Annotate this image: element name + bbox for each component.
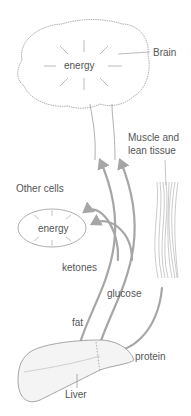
muscle-label-line2: lean tissue <box>128 145 176 156</box>
glucose-to-brain-arrow <box>98 160 135 350</box>
brain-label: Brain <box>153 47 176 58</box>
glucose-label: glucose <box>107 288 141 299</box>
muscle-illustration <box>155 160 178 278</box>
muscle-label-line1: Muscle and <box>128 132 179 143</box>
protein-label: protein <box>135 351 166 362</box>
fat-label: fat <box>72 317 83 328</box>
liver-label: Liver <box>65 389 87 400</box>
other-cells-label: Other cells <box>16 183 64 194</box>
pathway-arrows <box>78 160 162 351</box>
ketones-label: ketones <box>62 262 97 273</box>
cell-energy-label: energy <box>38 223 69 234</box>
brain-energy-label: energy <box>64 60 95 71</box>
